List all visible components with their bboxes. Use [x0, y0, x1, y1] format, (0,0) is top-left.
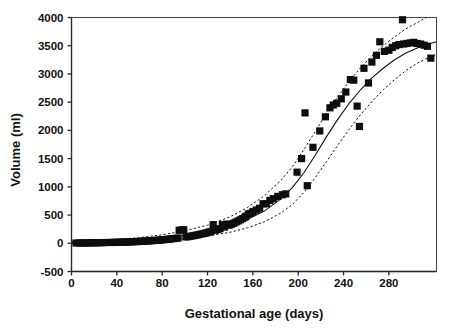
data-point	[373, 52, 380, 59]
y-tick-label: 1500	[38, 153, 64, 165]
data-point	[180, 226, 187, 233]
y-axis-title: Volume (ml)	[8, 113, 23, 186]
x-tick-label: 280	[379, 277, 398, 289]
data-point	[354, 103, 361, 110]
data-point	[360, 65, 367, 72]
data-point	[342, 88, 349, 95]
data-point	[282, 190, 289, 197]
y-tick-label: 3500	[38, 40, 64, 52]
data-point	[399, 16, 406, 23]
y-tick-label: 4000	[38, 12, 64, 24]
data-point	[365, 79, 372, 86]
data-point	[322, 113, 329, 120]
data-point	[368, 58, 375, 65]
x-tick-label: 200	[289, 277, 308, 289]
upper-confidence-band	[72, 18, 427, 242]
data-point	[298, 155, 305, 162]
data-point	[309, 144, 316, 151]
x-tick-label: 240	[334, 277, 353, 289]
data-point	[338, 95, 345, 102]
upper-ci-path	[72, 18, 427, 242]
x-tick-label: 160	[243, 277, 262, 289]
data-point	[356, 123, 363, 130]
data-point	[427, 55, 434, 62]
data-point	[293, 169, 300, 176]
data-point	[304, 182, 311, 189]
data-point	[350, 77, 357, 84]
data-point	[301, 109, 308, 116]
x-tick-label: 120	[198, 277, 217, 289]
data-point	[316, 127, 323, 134]
x-tick-label: 80	[156, 277, 169, 289]
y-tick-label: 1000	[38, 181, 64, 193]
data-points-group	[72, 16, 434, 246]
x-tick-label: 40	[110, 277, 123, 289]
y-tick-label: 3000	[38, 68, 64, 80]
y-tick-label: 2500	[38, 96, 64, 108]
y-axis: -50005001000150020002500300035004000	[38, 12, 72, 278]
data-point	[376, 38, 383, 45]
y-tick-label: 0	[57, 237, 63, 249]
growth-curve-chart: -50005001000150020002500300035004000 040…	[0, 0, 453, 331]
plot-frame	[72, 18, 437, 272]
x-tick-label: 0	[68, 277, 74, 289]
y-tick-label: -500	[40, 266, 63, 278]
y-tick-label: 2000	[38, 124, 64, 136]
data-point	[424, 43, 431, 50]
x-axis: 04080120160200240280	[68, 272, 436, 289]
x-axis-title: Gestational age (days)	[185, 306, 324, 321]
plot-frame-group	[72, 18, 437, 272]
data-point	[174, 234, 181, 241]
figure-container: -50005001000150020002500300035004000 040…	[0, 0, 453, 331]
y-tick-label: 500	[44, 209, 63, 221]
